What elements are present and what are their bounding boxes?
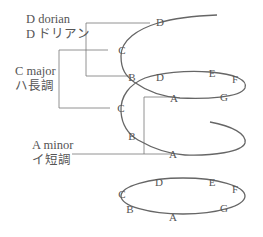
note-d: D bbox=[156, 16, 164, 28]
minor-label-ja: イ短調 bbox=[32, 153, 73, 168]
note-g: G bbox=[220, 202, 228, 214]
note-a: A bbox=[169, 148, 177, 160]
note-letters: D C B D E F A G C B A D E F G A B C bbox=[117, 16, 238, 223]
note-c: C bbox=[118, 188, 125, 200]
note-a: A bbox=[170, 92, 178, 104]
minor-label: A minor イ短調 bbox=[32, 138, 73, 168]
note-b: B bbox=[128, 130, 135, 142]
note-e: E bbox=[209, 176, 216, 188]
note-f: F bbox=[232, 73, 238, 85]
major-label-en: C major bbox=[15, 64, 56, 79]
note-c: C bbox=[118, 44, 125, 56]
dorian-label: D dorian D ドリアン bbox=[26, 12, 90, 42]
note-b: B bbox=[128, 71, 135, 83]
major-label-ja: ハ長調 bbox=[15, 79, 56, 94]
note-f: F bbox=[232, 183, 238, 195]
spiral-curve bbox=[121, 15, 245, 214]
note-c: C bbox=[117, 102, 124, 114]
note-a: A bbox=[169, 211, 177, 223]
bracket-lines bbox=[59, 23, 172, 154]
note-d: D bbox=[155, 176, 163, 188]
minor-label-en: A minor bbox=[32, 138, 73, 153]
dorian-label-ja: D ドリアン bbox=[26, 27, 90, 42]
note-d: D bbox=[156, 71, 164, 83]
major-label: C major ハ長調 bbox=[15, 64, 56, 94]
note-g: G bbox=[220, 91, 228, 103]
note-e: E bbox=[209, 67, 216, 79]
major-bracket bbox=[59, 50, 110, 108]
dorian-label-en: D dorian bbox=[26, 12, 90, 27]
note-b: B bbox=[126, 203, 133, 215]
scale-spiral-diagram: D C B D E F A G C B A D E F G A B C D do… bbox=[0, 0, 263, 237]
